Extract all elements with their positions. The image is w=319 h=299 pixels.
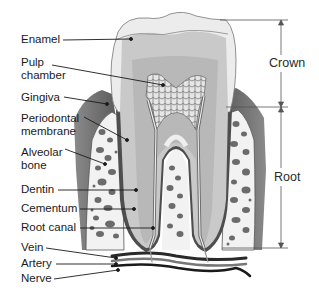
label-cementum: Cementum [21, 202, 77, 215]
label-gingiva: Gingiva [21, 91, 60, 104]
label-root: Root [273, 170, 301, 184]
vessels [112, 248, 250, 276]
interradicular-bone [162, 148, 190, 250]
label-pulp-chamber-line1: Pulp [21, 56, 44, 69]
label-nerve: Nerve [21, 272, 52, 285]
label-periodontal-membrane-line2: membrane [21, 125, 76, 138]
label-root-canal: Root canal [21, 221, 76, 234]
label-vein: Vein [21, 241, 43, 254]
label-periodontal-membrane-line1: Periodontal [21, 112, 79, 125]
label-crown: Crown [268, 56, 306, 70]
label-pulp-chamber-line2: chamber [21, 69, 66, 82]
label-artery: Artery [21, 257, 52, 270]
label-alveolar-bone-line2: bone [21, 159, 47, 172]
label-enamel: Enamel [21, 33, 60, 46]
label-alveolar-bone-line1: Alveolar [21, 146, 63, 159]
label-dentin: Dentin [21, 183, 54, 196]
